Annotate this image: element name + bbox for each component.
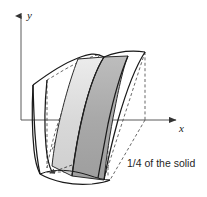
- figure-container: y x: [0, 0, 207, 197]
- slab-group: [52, 56, 128, 180]
- solid-diagram-svg: y x: [0, 0, 207, 197]
- inner-left-curve: [45, 80, 52, 172]
- x-axis-label: x: [178, 122, 184, 134]
- caption-text: 1/4 of the solid: [127, 157, 195, 169]
- base-left-connector: [33, 85, 40, 174]
- y-axis-label: y: [26, 9, 32, 21]
